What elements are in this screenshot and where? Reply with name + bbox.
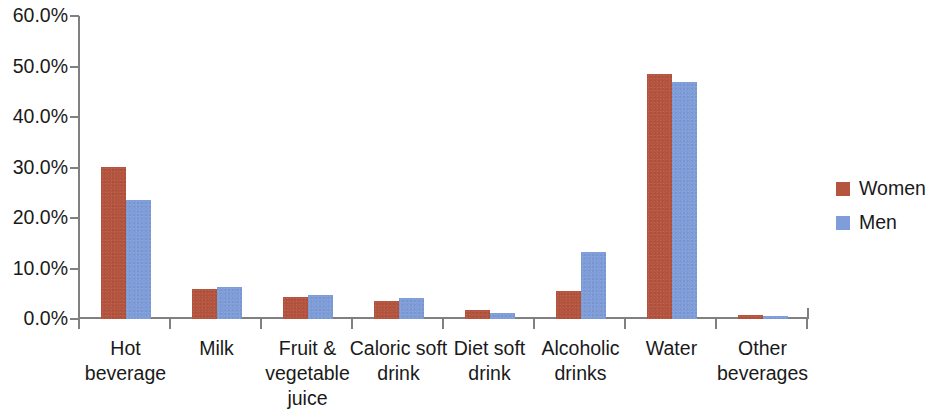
y-axis-tick-label: 0.0% — [2, 309, 68, 329]
bar-men-diet-soft-drink — [490, 313, 515, 319]
bar-women-caloric-soft-drink — [374, 301, 399, 319]
x-axis-tick — [442, 319, 444, 329]
bar-women-alcoholic-drinks — [556, 291, 581, 319]
bar-women-other-beverages — [738, 315, 763, 319]
bar-men-other-beverages — [763, 316, 788, 319]
bar-group — [717, 16, 808, 319]
y-axis-tick-label-wrap: 0.0% — [0, 309, 68, 329]
bar-group — [535, 16, 626, 319]
bar-women-hot-beverage — [101, 167, 126, 320]
bar-men-milk — [217, 287, 242, 319]
y-axis-tick-label: 10.0% — [2, 259, 68, 279]
bar-men-water — [672, 82, 697, 319]
bar-women-water — [647, 74, 672, 319]
legend-swatch-icon — [836, 182, 850, 196]
legend-item-men[interactable]: Men — [836, 206, 926, 240]
bar-group — [626, 16, 717, 319]
y-axis-tick — [70, 167, 79, 169]
plot-area — [80, 16, 808, 319]
bar-men-alcoholic-drinks — [581, 252, 606, 319]
bar-group — [353, 16, 444, 319]
y-axis-tick-label-wrap: 10.0% — [0, 259, 68, 279]
chart-legend: WomenMen — [836, 172, 926, 240]
bar-women-milk — [192, 289, 217, 319]
y-axis-tick-label-wrap: 50.0% — [0, 57, 68, 77]
y-axis-tick — [70, 268, 79, 270]
y-axis-tick — [70, 116, 79, 118]
y-axis-tick-label: 20.0% — [2, 208, 68, 228]
bar-group — [171, 16, 262, 319]
x-axis-tick — [624, 319, 626, 329]
bar-women-fruit-vegetable-juice — [283, 297, 308, 319]
x-axis-tick — [806, 319, 808, 329]
bar-group — [80, 16, 171, 319]
y-axis-tick-label-wrap: 20.0% — [0, 208, 68, 228]
legend-label: Women — [859, 179, 926, 199]
x-axis-tick — [715, 319, 717, 329]
x-axis-category-label: Other beverages — [709, 336, 816, 386]
bar-men-fruit-vegetable-juice — [308, 295, 333, 319]
y-axis-tick-label-wrap: 60.0% — [0, 6, 68, 26]
y-axis-tick — [70, 66, 79, 68]
bar-group — [444, 16, 535, 319]
y-axis-tick-label-wrap: 30.0% — [0, 158, 68, 178]
legend-item-women[interactable]: Women — [836, 172, 926, 206]
x-axis-tick — [533, 319, 535, 329]
y-axis-tick-label-wrap: 40.0% — [0, 107, 68, 127]
x-axis-tick — [169, 319, 171, 329]
x-axis-tick — [351, 319, 353, 329]
x-axis-tick — [260, 319, 262, 329]
y-axis-tick-label: 60.0% — [2, 6, 68, 26]
bar-group — [262, 16, 353, 319]
x-axis-tick — [78, 319, 80, 329]
y-axis-tick-label: 30.0% — [2, 158, 68, 178]
y-axis-tick-label: 40.0% — [2, 107, 68, 127]
y-axis-tick — [70, 217, 79, 219]
y-axis-tick-label: 50.0% — [2, 57, 68, 77]
bar-men-hot-beverage — [126, 200, 151, 319]
legend-swatch-icon — [836, 216, 850, 230]
y-axis-tick — [70, 15, 79, 17]
bar-men-caloric-soft-drink — [399, 298, 424, 319]
bar-women-diet-soft-drink — [465, 310, 490, 319]
legend-label: Men — [859, 213, 897, 233]
